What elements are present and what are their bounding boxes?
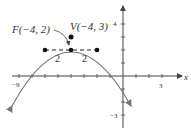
y-tick-label-4: 4: [113, 20, 117, 28]
vertex-point: [69, 35, 74, 40]
parabola-diagram: F(−4, 2) V(−4, 3) 2 2 x −9 3 4 −3: [0, 0, 191, 128]
latus-left-point: [43, 48, 48, 53]
focus-point: [69, 48, 74, 53]
parabola-curve: [12, 52, 131, 106]
half-width-right-label: 2: [82, 53, 87, 64]
focus-label: F(−4, 2): [11, 23, 50, 36]
x-tick-label-min: −9: [12, 81, 20, 89]
x-tick-label-3: 3: [159, 82, 163, 90]
latus-right-point: [95, 48, 100, 53]
half-width-left-label: 2: [55, 53, 60, 64]
x-axis-label: x: [183, 72, 188, 82]
vertex-label: V(−4, 3): [70, 20, 108, 33]
y-tick-label-minus3: −3: [110, 112, 118, 120]
focus-pointer-arrow: [54, 30, 69, 45]
